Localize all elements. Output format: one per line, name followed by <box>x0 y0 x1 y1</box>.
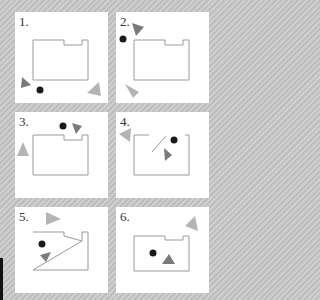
panel-1: 1. <box>15 12 108 103</box>
panel-2: 2. <box>116 12 209 103</box>
dark-triangle-icon <box>164 148 172 161</box>
panel-6: 6. <box>116 207 209 293</box>
panel-5: 5. <box>15 207 108 293</box>
panel-4: 4. <box>116 112 209 198</box>
room-outline <box>134 40 189 80</box>
light-triangle-icon <box>17 142 29 156</box>
dark-triangle-icon <box>21 77 31 88</box>
dark-triangle-icon <box>132 23 144 36</box>
room-outline <box>33 40 88 80</box>
light-triangle-icon <box>87 82 101 96</box>
dark-triangle-icon <box>162 254 175 264</box>
dark-triangle-icon <box>72 123 82 134</box>
panel-6-scene <box>116 207 209 293</box>
dot-icon <box>171 137 178 144</box>
light-triangle-icon <box>46 212 61 225</box>
open-door-line <box>152 136 166 152</box>
light-triangle-icon <box>125 84 139 98</box>
dot-icon <box>60 123 67 130</box>
panel-5-scene <box>15 207 108 293</box>
panel-1-scene <box>15 12 108 103</box>
panel-2-scene <box>116 12 209 103</box>
room-outline <box>33 232 88 270</box>
light-triangle-icon <box>185 216 198 231</box>
room-outline <box>134 236 189 271</box>
dot-icon <box>120 36 127 43</box>
dot-icon <box>39 241 46 248</box>
panel-4-scene <box>116 112 209 198</box>
dot-icon <box>37 87 44 94</box>
light-triangle-icon <box>119 128 131 142</box>
panel-3-scene <box>15 112 108 198</box>
panel-3: 3. <box>15 112 108 198</box>
dot-icon <box>150 250 157 257</box>
left-edge-bar <box>0 258 3 300</box>
room-outline <box>33 135 88 175</box>
open-door-line <box>64 236 82 241</box>
